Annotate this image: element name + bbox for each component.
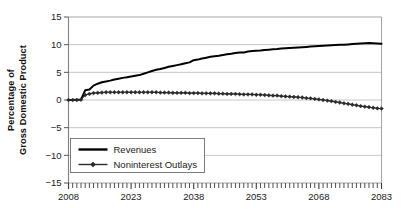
x-tick-label-2038: 2038 — [183, 191, 204, 202]
legend-label-revenues: Revenues — [114, 144, 157, 155]
y-tick-label-neg10: −10 — [45, 150, 61, 161]
x-tick-label-2008: 2008 — [58, 191, 79, 202]
y-tick-label-5: 5 — [56, 67, 61, 78]
y-tick-label-15: 15 — [51, 11, 62, 22]
x-tick-label-2083: 2083 — [371, 191, 392, 202]
chart-canvas: 151050−5−10−15 200820232038205320682083 … — [0, 0, 401, 214]
y-axis-title-line2: Gross Domestic Product — [18, 45, 28, 155]
x-tick-label-2023: 2023 — [121, 191, 142, 202]
y-tick-label-10: 10 — [51, 39, 62, 50]
legend-label-noninterest-outlays: Noninterest Outlays — [114, 159, 198, 170]
x-tick-label-2053: 2053 — [246, 191, 267, 202]
chart-legend: RevenuesNoninterest Outlays — [71, 139, 205, 173]
y-tick-label-neg5: −5 — [51, 122, 62, 133]
y-tick-label-0: 0 — [56, 94, 61, 105]
y-tick-label-neg15: −15 — [45, 177, 61, 188]
y-axis-title-line1: Percentage of — [6, 68, 16, 131]
chart-figure: 151050−5−10−15 200820232038205320682083 … — [0, 0, 401, 214]
x-tick-label-2068: 2068 — [308, 191, 329, 202]
